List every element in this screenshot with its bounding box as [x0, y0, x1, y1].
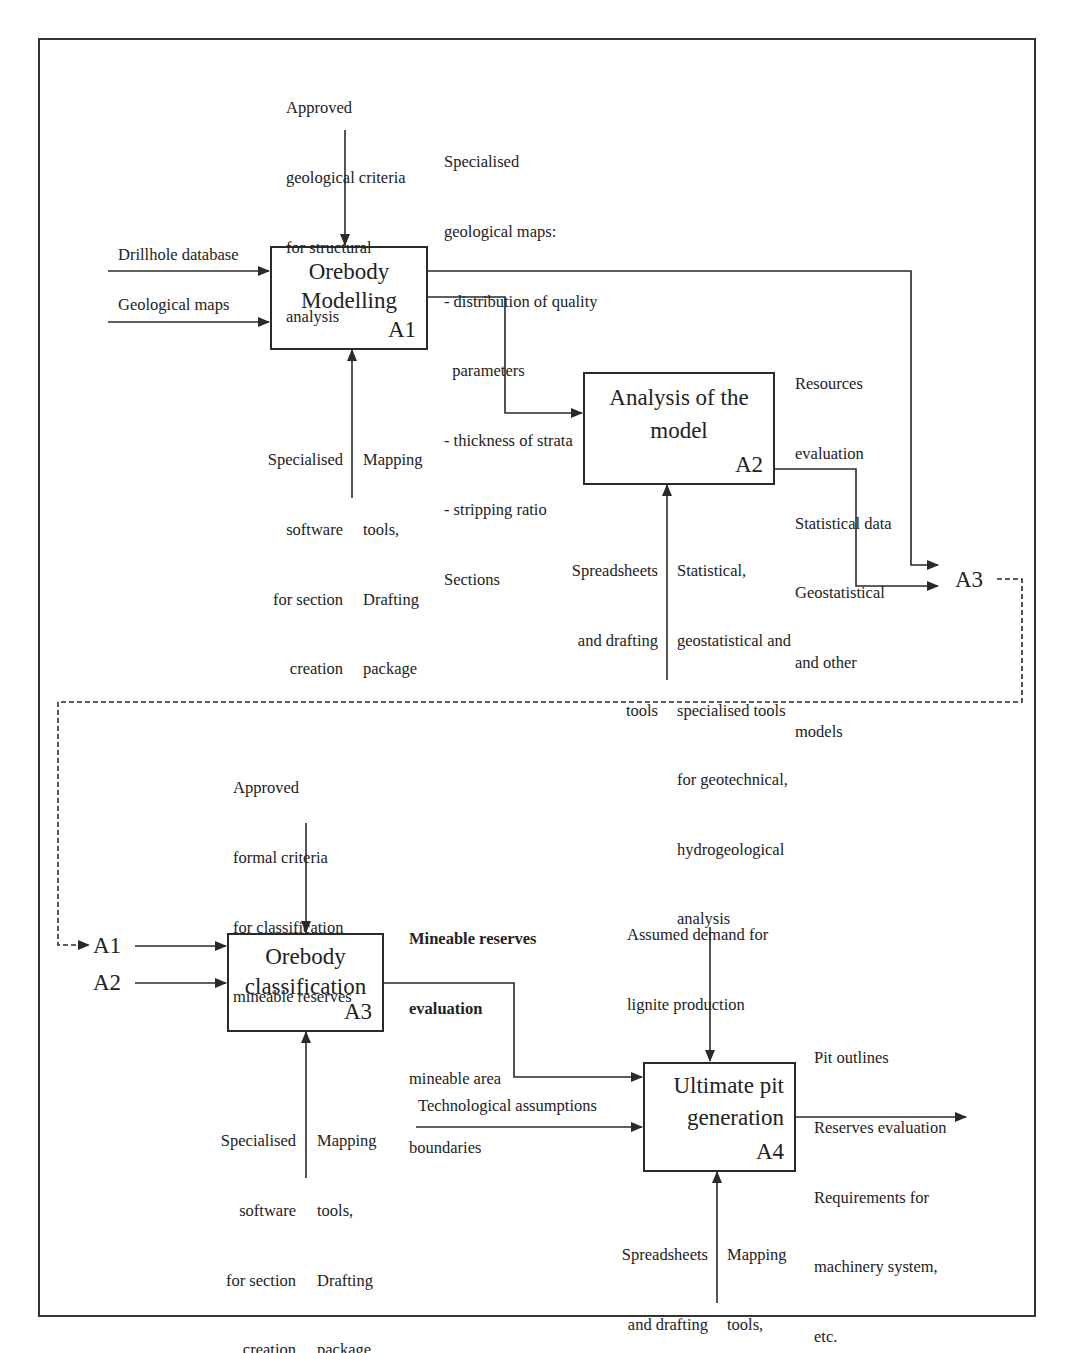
a4-input-tech: Technological assumptions: [418, 1094, 597, 1117]
a1-input-geomaps: Geological maps: [118, 293, 229, 316]
a4-mechanism-left: Spreadsheets and drafting tools: [596, 1197, 708, 1353]
a3-control-label: Approved formal criteria for classificat…: [233, 730, 352, 1055]
a3-mechanism-left: Specialised software for section creatio…: [188, 1083, 296, 1353]
a1-mechanism-right: Mapping tools, Drafting package: [363, 402, 423, 727]
a2-mechanism-left: Spreadsheets and drafting tools: [548, 513, 658, 768]
a3-output-label: Mineable reserves evaluation mineable ar…: [409, 881, 537, 1206]
activity-box-a2: Analysis of the model A2: [583, 372, 775, 485]
a1-mechanism-left: Specialised software for section creatio…: [236, 402, 343, 727]
activity-title: Ultimate pit: [645, 1070, 784, 1102]
a1-control-label: Approved geological criteria for structu…: [286, 50, 406, 375]
a2-output-label: Resources evaluation Statistical data Ge…: [795, 326, 892, 790]
a4-mechanism-right: Mapping tools, Drafting package: [727, 1197, 787, 1353]
a4-output-label: Pit outlines Reserves evaluation Require…: [814, 1000, 946, 1353]
activity-box-a4: Ultimate pit generation A4: [643, 1062, 796, 1172]
activity-code: A4: [756, 1138, 784, 1166]
activity-title: model: [585, 415, 773, 447]
activity-code: A2: [735, 451, 763, 479]
a3-input-a2-ref: A2: [93, 969, 121, 997]
idef0-diagram: Orebody Modelling A1 Analysis of the mod…: [0, 0, 1072, 1353]
connector-a3-ref: A3: [955, 566, 983, 594]
activity-title: generation: [645, 1102, 784, 1134]
a3-mechanism-right: Mapping tools, Drafting package: [317, 1083, 377, 1353]
activity-title: Analysis of the: [585, 382, 773, 414]
a1-input-drillhole: Drillhole database: [118, 243, 239, 266]
a4-control-label: Assumed demand for lignite production: [627, 877, 768, 1063]
a3-input-a1-ref: A1: [93, 932, 121, 960]
